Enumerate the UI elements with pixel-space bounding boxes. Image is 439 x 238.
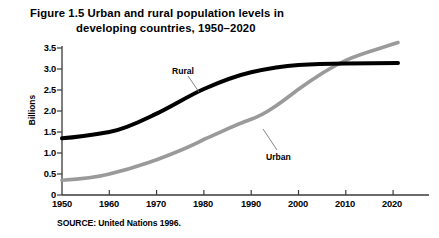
figure-container: Figure 1.5 Urban and rural population le… <box>0 0 439 238</box>
urban-series-line-seg1 <box>62 139 204 180</box>
series-label-urban: Urban <box>266 152 291 162</box>
urban-series-line-seg2 <box>204 43 398 140</box>
source-note: SOURCE: United Nations 1996. <box>57 218 181 228</box>
series-label-rural: Rural <box>172 66 194 76</box>
x-tick-marks <box>109 190 393 195</box>
y-tick-marks <box>57 48 62 195</box>
rural-leader-line <box>188 76 199 92</box>
chart-plot-area <box>0 0 439 238</box>
urban-leader-line <box>263 129 277 150</box>
